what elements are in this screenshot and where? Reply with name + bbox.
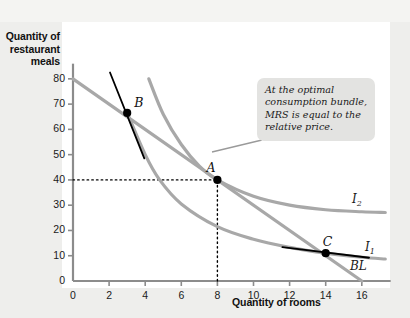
data-point-c [322,249,330,257]
plot-svg [0,0,410,318]
data-point-a [213,176,221,184]
optimal-bundle-callout: At the optimal consumption bundle, MRS i… [257,78,375,141]
curve-label-i1-subscript: 1 [370,247,375,256]
curve-label-i1: I1 [365,240,375,256]
data-point-b [123,109,131,117]
point-label-c: C [323,234,333,249]
point-label-a: A [206,160,215,175]
curve-label-bl: BL [350,259,367,273]
curve-label-i2: I2 [352,192,362,208]
curve-label-i2-subscript: 2 [357,199,362,208]
callout-leader-line [212,140,262,152]
point-label-b: B [134,95,143,110]
economics-indifference-curve-figure: Quantity of restaurant meals Quantity of… [0,0,410,318]
